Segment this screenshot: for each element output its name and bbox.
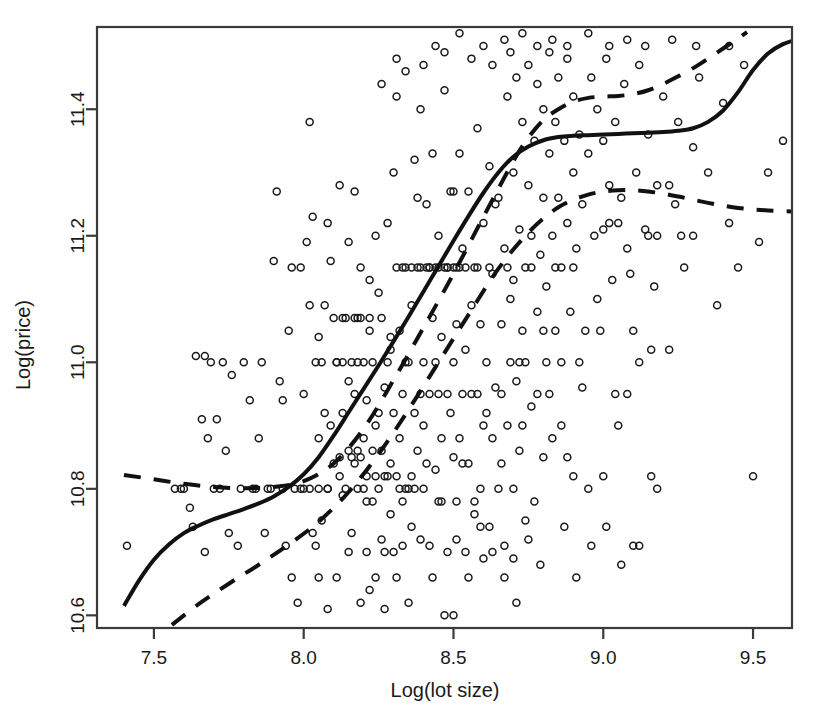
chart-figure: 7.58.08.59.09.510.610.811.011.211.4 Log(… xyxy=(0,0,814,715)
y-axis-tick-label: 11.4 xyxy=(67,91,88,127)
x-axis-tick-label: 9.5 xyxy=(740,647,766,668)
x-axis-tick-label: 7.5 xyxy=(141,647,167,668)
y-axis-title: Log(price) xyxy=(12,300,34,390)
y-axis-tick-label: 10.8 xyxy=(67,470,88,507)
x-axis-tick-label: 8.5 xyxy=(440,647,466,668)
y-axis-tick-label: 11.0 xyxy=(67,345,88,381)
y-axis-tick-label: 11.2 xyxy=(67,218,88,254)
x-axis-tick-label: 8.0 xyxy=(290,647,316,668)
y-axis-tick-label: 10.6 xyxy=(67,597,88,634)
x-axis-title: Log(lot size) xyxy=(391,679,500,701)
scatter-plot-svg: 7.58.08.59.09.510.610.811.011.211.4 Log(… xyxy=(0,0,814,715)
x-axis-tick-label: 9.0 xyxy=(590,647,616,668)
